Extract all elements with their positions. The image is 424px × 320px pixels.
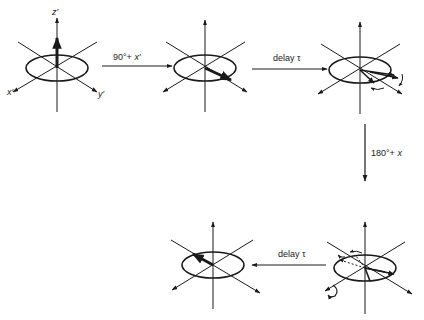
delay-2-label: delay τ [278,249,306,259]
pulse-90-label: 90°+ x′ [113,52,141,62]
x-axis-label: x′ [6,87,14,97]
frame-initial [13,18,97,112]
frame-after-delay-1 [318,22,403,114]
z-axis-label: z′ [51,7,59,17]
rotation-arrow-fast [399,74,403,86]
pulse-180-label: 180°+ x [371,148,402,158]
delay-1-label: delay τ [273,53,301,63]
frame-echo [171,222,260,309]
magnetization-vector [205,68,231,80]
reflected-vector-dashed [340,260,365,268]
refocused-vector [193,254,213,265]
y-axis-label: y′ [97,89,105,99]
spin-echo-diagram: z′ x′ y′ 90°+ x′ delay τ 180°+ x [0,0,424,320]
frame-after-180 [325,222,412,314]
frame-after-90 [163,20,247,112]
rotation-arrow-slow [371,88,384,90]
